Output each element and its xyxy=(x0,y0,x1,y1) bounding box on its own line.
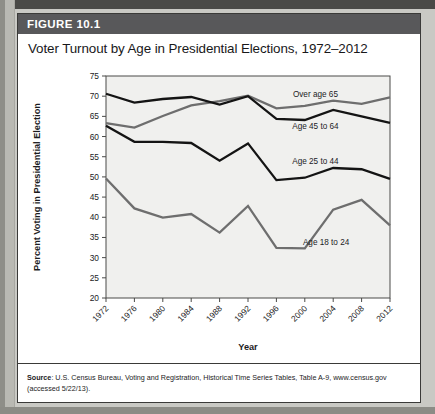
x-tick-label: 2004 xyxy=(317,303,337,323)
y-tick-label: 20 xyxy=(90,293,100,303)
y-tick-label: 25 xyxy=(90,273,100,283)
source-text: : U.S. Census Bureau, Voting and Registr… xyxy=(27,373,387,392)
x-tick-label: 2008 xyxy=(346,303,366,323)
y-axis-title: Percent Voting in Presidential Election xyxy=(32,103,42,271)
y-tick-label: 70 xyxy=(90,91,100,101)
chart-area: 2025303540455055606570751972197619801984… xyxy=(18,60,420,360)
x-tick-label: 1984 xyxy=(175,303,195,323)
x-tick-label: 1992 xyxy=(232,303,252,323)
page-bottom-edge xyxy=(0,407,435,414)
x-tick-label: 1996 xyxy=(261,303,281,323)
y-tick-label: 50 xyxy=(90,172,100,182)
source-label: Source xyxy=(27,373,51,382)
y-tick-label: 45 xyxy=(90,192,100,202)
line-chart: 2025303540455055606570751972197619801984… xyxy=(18,60,420,360)
source-note: Source: U.S. Census Bureau, Voting and R… xyxy=(27,373,413,394)
page-gutter-shadow xyxy=(0,0,5,414)
plot-area xyxy=(106,76,390,298)
page-top-edge xyxy=(0,0,435,9)
y-tick-label: 60 xyxy=(90,132,100,142)
series-label: Age 18 to 24 xyxy=(303,238,350,247)
x-tick-label: 1988 xyxy=(204,303,224,323)
y-tick-label: 75 xyxy=(90,71,100,81)
series-label: Age 25 to 44 xyxy=(292,157,339,166)
y-tick-label: 30 xyxy=(90,253,100,263)
figure-card: FIGURE 10.1 Voter Turnout by Age in Pres… xyxy=(17,13,421,403)
x-axis-title: Year xyxy=(238,342,258,352)
figure-banner: FIGURE 10.1 xyxy=(18,14,420,34)
page-background: FIGURE 10.1 Voter Turnout by Age in Pres… xyxy=(0,0,435,414)
figure-title: Voter Turnout by Age in Presidential Ele… xyxy=(18,34,420,60)
source-divider xyxy=(18,363,420,364)
x-tick-label: 2000 xyxy=(289,303,309,323)
y-tick-label: 55 xyxy=(90,152,100,162)
figure-number-label: FIGURE 10.1 xyxy=(27,18,100,30)
x-tick-label: 1980 xyxy=(147,303,167,323)
x-tick-label: 1972 xyxy=(90,303,110,323)
series-label: Age 45 to 64 xyxy=(292,122,339,131)
y-tick-label: 40 xyxy=(90,212,100,222)
series-label: Over age 65 xyxy=(293,90,339,99)
x-tick-label: 1976 xyxy=(119,303,139,323)
y-tick-label: 35 xyxy=(90,232,100,242)
y-tick-label: 65 xyxy=(90,111,100,121)
x-tick-label: 2012 xyxy=(374,303,394,323)
